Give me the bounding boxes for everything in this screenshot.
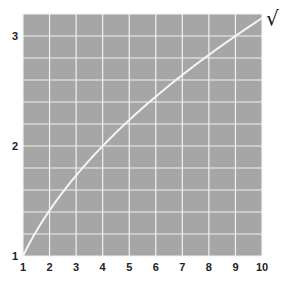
y-tick-label: 2 — [12, 140, 18, 152]
sqrt-chart: 12345678910 123 √ — [0, 0, 287, 281]
x-tick-label: 8 — [206, 261, 212, 273]
x-tick-label: 1 — [20, 261, 26, 273]
x-tick-label: 5 — [126, 261, 132, 273]
x-tick-label: 3 — [73, 261, 79, 273]
x-tick-label: 9 — [232, 261, 238, 273]
x-axis-ticks: 12345678910 — [20, 261, 268, 273]
y-tick-label: 3 — [12, 30, 18, 42]
x-tick-label: 6 — [153, 261, 159, 273]
y-axis-ticks: 123 — [12, 30, 18, 262]
x-tick-label: 10 — [256, 261, 268, 273]
sqrt-symbol-annotation: √ — [266, 6, 279, 30]
plot-area — [23, 14, 262, 256]
x-tick-label: 2 — [46, 261, 52, 273]
x-tick-label: 7 — [179, 261, 185, 273]
y-tick-label: 1 — [12, 250, 18, 262]
x-tick-label: 4 — [100, 261, 107, 273]
